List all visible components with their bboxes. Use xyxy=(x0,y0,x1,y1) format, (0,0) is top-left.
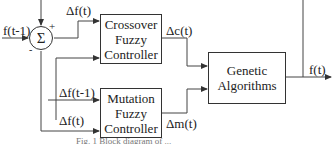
plus-sign: + xyxy=(49,20,55,33)
block-line: Fuzzy xyxy=(115,106,147,121)
sigma-symbol: Σ xyxy=(37,30,46,47)
signal-delta-c: Δc(t) xyxy=(166,24,192,37)
block-line: Controller xyxy=(104,47,157,62)
signal-delta-f-prev: Δf(t-1) xyxy=(59,86,95,99)
mutation-fuzzy-controller-block: Mutation Fuzzy Controller xyxy=(100,88,162,138)
block-line: Crossover xyxy=(105,17,158,32)
input-label-f-t-minus-1: f(t-1) xyxy=(3,24,30,37)
block-line: Fuzzy xyxy=(115,32,147,47)
signal-output-f-t: f(t) xyxy=(309,63,326,76)
genetic-algorithms-block: Genetic Algorithms xyxy=(208,52,286,104)
figure-caption: Fig. 1 Block diagram of ... xyxy=(76,136,171,144)
signal-delta-f-top: Δf(t) xyxy=(66,4,91,17)
block-line: Mutation xyxy=(107,91,155,106)
block-line: Algorithms xyxy=(217,78,276,93)
block-line: Controller xyxy=(104,121,157,136)
signal-delta-f-bottom: Δf(t) xyxy=(59,114,84,127)
block-line: Genetic xyxy=(227,63,267,78)
minus-sign: - xyxy=(29,43,32,56)
signal-delta-m: Δm(t) xyxy=(166,117,197,130)
crossover-fuzzy-controller-block: Crossover Fuzzy Controller xyxy=(100,14,162,64)
